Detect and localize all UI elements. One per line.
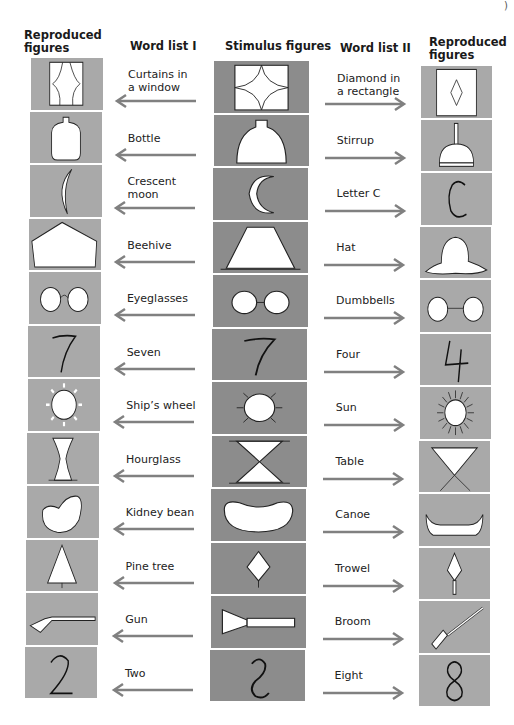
- arrow-right-icon: [325, 97, 407, 111]
- word-list-1-label: Kidney bean: [126, 506, 194, 519]
- word-list-2-label: Canoe: [335, 508, 370, 521]
- word-list-1-label: Hourglass: [126, 453, 181, 466]
- word-list-2-label: Trowel: [335, 562, 370, 575]
- diamond-stem-icon: [211, 543, 306, 595]
- word-list-2-label: Eight: [335, 669, 363, 682]
- reproduced-figure-right-canoe: [419, 494, 490, 546]
- trapezoid-icon: [213, 222, 308, 274]
- eyeglasses-icon: [29, 272, 101, 324]
- word-list-2-label: Table: [335, 455, 363, 468]
- two-circles-line-icon: [213, 275, 308, 327]
- header-right-reproduced: Reproduced figures: [429, 36, 507, 62]
- stimulus-figure-seven: [212, 329, 307, 381]
- arrow-right-icon: [323, 632, 405, 646]
- reproduced-figure-right-four: [420, 334, 491, 386]
- stimulus-figure-two-triangles: [212, 436, 307, 488]
- word-list-2-label: Diamond in a rectangle: [337, 72, 400, 98]
- arrow-left-icon: [112, 576, 194, 590]
- header-word-list-1: Word list I: [130, 40, 197, 53]
- dumbbells-icon: [420, 280, 491, 332]
- reproduced-figure-left-pine-tree: [26, 540, 98, 592]
- reproduced-figure-right-sun: [420, 387, 491, 439]
- two-icon: [25, 647, 97, 699]
- reproduced-figure-right-table: [419, 441, 490, 493]
- arrow-left-icon: [114, 94, 196, 108]
- reproduced-figure-right-diamond-rectangle: [421, 66, 492, 118]
- gun-icon: [26, 593, 98, 645]
- arrow-right-icon: [323, 525, 405, 539]
- stimulus-figure-trapezoid: [213, 222, 308, 274]
- arrow-right-icon: [325, 204, 407, 218]
- reproduced-figure-right-letter-c: [421, 173, 492, 225]
- reproduced-figure-left-hourglass: [27, 433, 99, 485]
- arrow-left-icon: [114, 148, 196, 162]
- word-list-1-label: Seven: [127, 346, 161, 359]
- arrow-left-icon: [112, 522, 194, 536]
- stimulus-figure-bell-jar: [214, 115, 309, 167]
- word-list-1-label: Bottle: [128, 132, 161, 145]
- reproduced-figure-left-kidney-bean: [27, 486, 99, 538]
- arrow-right-icon: [324, 365, 406, 379]
- arrow-right-icon: [324, 258, 406, 272]
- reproduced-figure-left-two: [25, 647, 97, 699]
- arrow-left-icon: [113, 362, 195, 376]
- arrow-right-icon: [323, 579, 405, 593]
- stimulus-figure-triangle-bar: [211, 596, 306, 648]
- reproduced-figure-right-hat: [420, 227, 491, 279]
- header-stimulus: Stimulus figures: [225, 40, 331, 53]
- reproduced-figure-left-eyeglasses: [29, 272, 101, 324]
- stimulus-figure-two-circles-line: [213, 275, 308, 327]
- canoe-icon: [419, 494, 490, 546]
- arrow-left-icon: [112, 415, 194, 429]
- arrow-left-icon: [113, 255, 195, 269]
- arrow-right-icon: [323, 686, 405, 700]
- concave-square-icon: [214, 61, 309, 113]
- reproduced-figure-left-ships-wheel: [28, 379, 100, 431]
- word-list-1-label: Eyeglasses: [127, 292, 188, 305]
- arrow-left-icon: [113, 201, 195, 215]
- crescent-moon-icon: [30, 165, 102, 217]
- eight-icon: [419, 655, 490, 707]
- word-list-1-label: Gun: [125, 613, 147, 626]
- diamond-rectangle-icon: [421, 66, 492, 118]
- stimulus-figure-kidney-shape: [211, 489, 306, 541]
- hat-icon: [420, 227, 491, 279]
- reproduced-figure-right-broom: [419, 601, 490, 653]
- kidney-bean-icon: [27, 486, 99, 538]
- trowel-icon: [419, 548, 490, 600]
- stimulus-figure-diamond-stem: [211, 543, 306, 595]
- seven-icon: [28, 326, 100, 378]
- header-left-reproduced: Reproduced figures: [24, 29, 102, 55]
- word-list-1-label: Ship’s wheel: [126, 399, 195, 412]
- arrow-right-icon: [324, 418, 406, 432]
- arrow-left-icon: [113, 308, 195, 322]
- word-list-1-label: Pine tree: [126, 560, 175, 573]
- word-list-2-label: Hat: [336, 241, 355, 254]
- reproduced-figure-left-bottle: [30, 112, 102, 164]
- stimulus-figure-concave-square: [214, 61, 309, 113]
- reproduced-figure-left-gun: [26, 593, 98, 645]
- arrow-left-icon: [111, 629, 193, 643]
- reproduced-figure-left-seven: [28, 326, 100, 378]
- arrow-right-icon: [324, 311, 406, 325]
- corner-mark: ): [504, 0, 508, 11]
- word-list-1-label: Crescent moon: [127, 175, 176, 201]
- reproduced-figure-left-curtains-window: [31, 58, 103, 110]
- word-list-1-label: Two: [125, 667, 146, 680]
- beehive-icon: [29, 219, 101, 271]
- word-list-2-label: Broom: [335, 615, 371, 628]
- reproduced-figure-right-trowel: [419, 548, 490, 600]
- word-list-2-label: Dumbbells: [336, 294, 395, 307]
- bell-jar-icon: [214, 115, 309, 167]
- header-word-list-2: Word list II: [340, 42, 411, 55]
- word-list-2-label: Sun: [336, 401, 357, 414]
- stimulus-figure-crescent: [213, 168, 308, 220]
- reproduced-figure-left-crescent-moon: [30, 165, 102, 217]
- seven-icon: [212, 329, 307, 381]
- reproduced-figure-right-stirrup: [421, 120, 492, 172]
- stimulus-figure-circle-rays: [212, 382, 307, 434]
- arrow-right-icon: [323, 472, 405, 486]
- circle-rays-icon: [212, 382, 307, 434]
- reproduced-figure-right-eight: [419, 655, 490, 707]
- table-icon: [419, 441, 490, 493]
